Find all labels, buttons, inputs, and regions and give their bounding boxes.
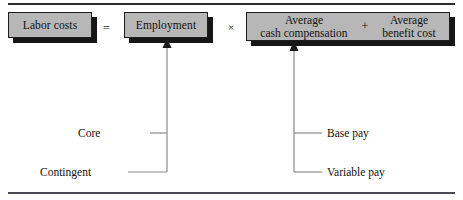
callout-label-core: Core bbox=[78, 127, 100, 140]
callout-label-base-pay: Base pay bbox=[327, 127, 369, 140]
arrowhead-average-cash-compensation bbox=[290, 41, 299, 51]
arrowhead-employment bbox=[163, 38, 172, 48]
connector-average-cash-compensation bbox=[294, 51, 322, 172]
callout-label-contingent: Contingent bbox=[40, 166, 91, 179]
bottom-rule bbox=[8, 192, 455, 194]
connector-employment bbox=[128, 48, 167, 172]
callout-label-variable-pay: Variable pay bbox=[327, 166, 385, 179]
figure-container: Labor costs = Employment × Average cash … bbox=[0, 0, 463, 200]
